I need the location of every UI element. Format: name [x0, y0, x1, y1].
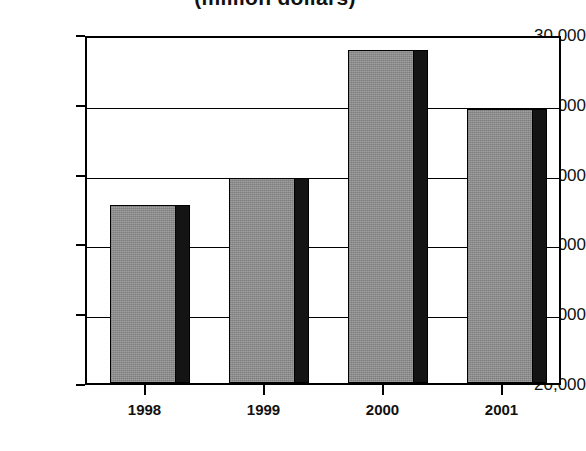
y-axis-tick-mark: [76, 314, 85, 316]
y-axis-tick-mark: [76, 244, 85, 246]
x-axis-tick-label-1998: 1998: [128, 401, 161, 418]
x-axis-tick-mark: [501, 385, 503, 395]
bar-face-2001: [467, 109, 533, 383]
bar-2001: [467, 109, 533, 383]
bar-shadow-2001: [533, 109, 547, 383]
bar-1998: [110, 205, 176, 383]
x-axis-tick-label-2001: 2001: [485, 401, 518, 418]
y-axis-tick-mark: [76, 175, 85, 177]
bar-face-1998: [110, 205, 176, 383]
x-axis-tick-mark: [144, 385, 146, 395]
y-axis-tick-mark: [76, 35, 85, 37]
bar-shadow-1999: [295, 178, 309, 383]
bar-2000: [348, 50, 414, 383]
plot-area: [85, 36, 561, 385]
x-axis-tick-mark: [263, 385, 265, 395]
x-axis-tick-label-2000: 2000: [366, 401, 399, 418]
bar-face-1999: [229, 178, 295, 383]
bar-face-2000: [348, 50, 414, 383]
x-axis-tick-label-1999: 1999: [247, 401, 280, 418]
y-axis-tick-mark: [76, 384, 85, 386]
x-axis-tick-mark: [382, 385, 384, 395]
y-axis-tick-mark: [76, 105, 85, 107]
chart-title: (million dollars): [0, 0, 586, 10]
bar-shadow-2000: [414, 50, 428, 383]
bar-shadow-1998: [176, 205, 190, 383]
bar-1999: [229, 178, 295, 383]
